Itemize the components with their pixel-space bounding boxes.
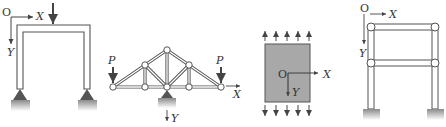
joint-icon <box>367 59 375 67</box>
origin-label: O <box>360 2 369 15</box>
joint-icon <box>164 47 170 53</box>
truss-figure: P P X Y <box>107 47 242 125</box>
y-axis-label: Y <box>171 112 180 125</box>
joint-icon <box>142 84 148 90</box>
beam-top <box>371 24 435 30</box>
pin-support-icon <box>80 89 94 100</box>
x-axis-label: X <box>322 68 332 81</box>
ground-icon-left <box>363 109 380 120</box>
joint-icon <box>431 59 439 67</box>
joint-icon <box>431 23 439 31</box>
ground-icon-right <box>427 109 444 120</box>
structures-diagram: O X Y <box>0 0 446 127</box>
origin-label: O <box>278 68 287 81</box>
ground-icon <box>11 100 30 111</box>
joint-icon <box>218 84 224 90</box>
joint-icon <box>367 23 375 31</box>
y-axis-label: Y <box>359 47 368 60</box>
frame-members <box>367 23 439 109</box>
origin-label: O <box>2 6 11 19</box>
pin-support-icon <box>161 90 173 98</box>
x-axis-label: X <box>388 8 398 21</box>
ground-icon <box>78 100 97 111</box>
joint-icon <box>186 84 192 90</box>
load-label-right: P <box>215 54 224 67</box>
joint-icon <box>186 62 192 68</box>
beam-middle <box>371 60 435 66</box>
load-label-left: P <box>107 54 116 67</box>
panel-figure: O X Y <box>265 31 332 116</box>
x-axis-label: X <box>35 10 45 23</box>
frame-member <box>17 25 90 89</box>
pin-support-icon <box>13 89 27 100</box>
joint-icon <box>164 84 170 90</box>
x-axis-label: X <box>232 88 242 101</box>
joint-icon <box>142 62 148 68</box>
bottom-load-arrows <box>265 105 309 116</box>
support-right <box>78 89 97 111</box>
top-load-arrows <box>265 31 309 41</box>
y-axis-label: Y <box>7 46 16 59</box>
portal-frame-figure: O X Y <box>2 3 97 111</box>
ground-icon <box>158 98 176 108</box>
support-left <box>11 89 30 111</box>
two-story-frame-figure: O X Y <box>359 2 444 120</box>
joint-icon <box>110 84 116 90</box>
